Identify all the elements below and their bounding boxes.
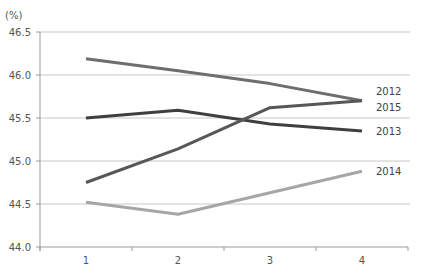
series-labels: 2012201320142015 xyxy=(376,86,401,178)
y-axis: 44.044.545.045.546.046.5 xyxy=(9,27,40,253)
series-line-2014 xyxy=(86,171,362,214)
y-tick-label: 46.0 xyxy=(9,70,31,81)
x-tick-label: 2 xyxy=(175,255,181,266)
line-chart: (%) 44.044.545.045.546.046.5 1234 201220… xyxy=(0,0,421,273)
series-label-2013: 2013 xyxy=(376,126,401,137)
x-tick-label: 1 xyxy=(83,255,89,266)
series-line-2012 xyxy=(86,59,362,101)
y-tick-label: 44.0 xyxy=(9,242,31,253)
y-tick-label: 45.0 xyxy=(9,156,31,167)
y-axis-unit-label: (%) xyxy=(5,10,22,21)
x-tick-label: 4 xyxy=(359,255,365,266)
series-label-2012: 2012 xyxy=(376,86,401,97)
y-tick-label: 45.5 xyxy=(9,113,31,124)
x-tick-label: 3 xyxy=(267,255,273,266)
y-tick-label: 44.5 xyxy=(9,199,31,210)
series-label-2014: 2014 xyxy=(376,166,401,177)
series-label-2015: 2015 xyxy=(376,102,401,113)
series-lines xyxy=(86,59,362,215)
y-tick-label: 46.5 xyxy=(9,27,31,38)
x-axis: 1234 xyxy=(40,247,408,266)
